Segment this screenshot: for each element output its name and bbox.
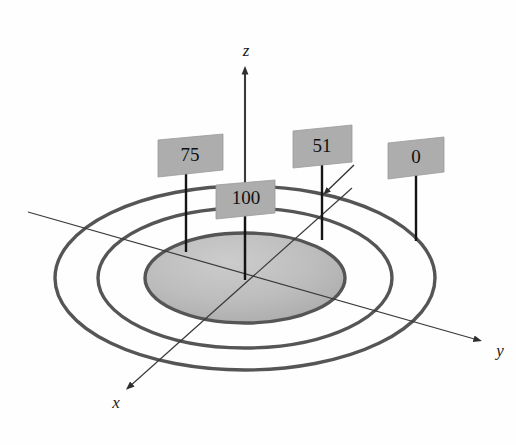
contour-diagram: z y x 75 100 51 <box>0 0 516 445</box>
flag-plates: 75 100 51 0 <box>158 125 444 219</box>
flag-100[interactable]: 100 <box>216 180 275 219</box>
flag-75[interactable]: 75 <box>158 134 223 177</box>
x-axis-label: x <box>111 393 120 412</box>
z-axis-label: z <box>242 41 250 60</box>
flag-100-label: 100 <box>232 187 261 208</box>
flag-0[interactable]: 0 <box>388 137 444 179</box>
flag-51-label: 51 <box>313 135 332 156</box>
flag-0-label: 0 <box>411 146 421 167</box>
flag-51[interactable]: 51 <box>293 125 352 168</box>
axis-group: z y x <box>28 41 504 412</box>
figure-container: z y x 75 100 51 <box>0 0 516 445</box>
flag-51-pointer-arrow <box>326 165 354 192</box>
y-axis-label: y <box>494 341 504 360</box>
flag-75-label: 75 <box>181 144 200 165</box>
